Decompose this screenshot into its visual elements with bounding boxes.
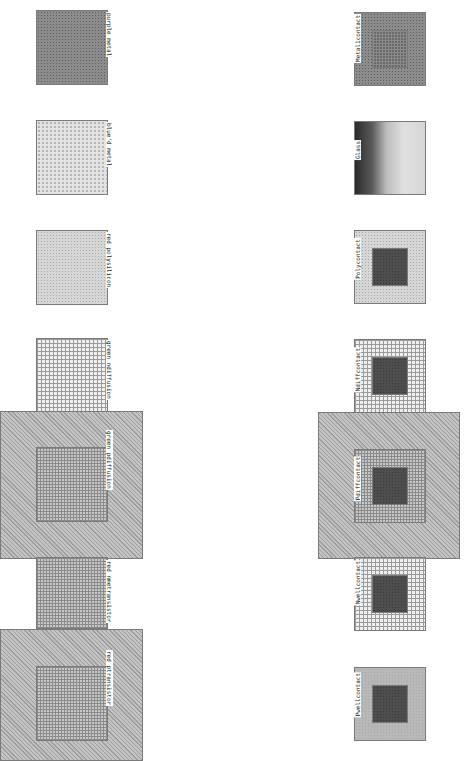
layer-label: purple metal bbox=[106, 12, 113, 57]
layer-label: red polysilicon bbox=[106, 232, 113, 288]
inner-square bbox=[372, 30, 408, 68]
layer-swatch-purple-metal bbox=[36, 10, 108, 85]
layer-label: red ptransistor bbox=[106, 650, 113, 706]
layer-swatch-red-nmetransistor bbox=[36, 557, 108, 629]
layer-swatch-pdiff-contact bbox=[318, 412, 460, 559]
inner-square bbox=[372, 575, 408, 613]
inner-square bbox=[354, 449, 426, 523]
layer-label: Nwellcontact bbox=[354, 560, 361, 605]
layer-swatch-glass bbox=[354, 121, 426, 195]
layer-swatch-green-pdiffusion bbox=[0, 411, 143, 559]
layer-label: Pwellcontact bbox=[354, 672, 361, 717]
layer-label: Ndiffcontact bbox=[354, 347, 361, 392]
layer-swatch-pwell-contact bbox=[354, 667, 426, 741]
layer-label: green ndiffusion bbox=[106, 340, 113, 400]
layer-label: green pdiffusion bbox=[106, 430, 113, 490]
layer-swatch-nwell-contact bbox=[354, 557, 426, 631]
layer-swatch-ndiff-contact bbox=[354, 339, 426, 413]
layer-label: Metal1contact bbox=[354, 14, 361, 63]
layer-swatch-red-ptransistor bbox=[0, 629, 143, 761]
inner-square bbox=[36, 447, 108, 522]
inner-square bbox=[36, 666, 108, 741]
layer-swatch-blue-metal bbox=[36, 120, 108, 195]
layer-label: Polycontact bbox=[354, 238, 361, 280]
layer-swatch-red-polysilicon bbox=[36, 230, 108, 305]
layer-label: red nmetransistor bbox=[106, 560, 113, 623]
layer-label: Pdiffcontact bbox=[354, 456, 361, 501]
layer-swatch-green-ndiffusion bbox=[36, 338, 108, 418]
inner-contact bbox=[372, 467, 408, 505]
layer-swatch-metal1-contact bbox=[354, 12, 426, 86]
inner-square bbox=[372, 248, 408, 286]
inner-square bbox=[372, 685, 408, 723]
layer-label: Glass bbox=[354, 140, 361, 160]
layer-swatch-poly-contact bbox=[354, 230, 426, 304]
layer-label: blue'd metal bbox=[106, 122, 113, 167]
inner-square bbox=[372, 357, 408, 395]
